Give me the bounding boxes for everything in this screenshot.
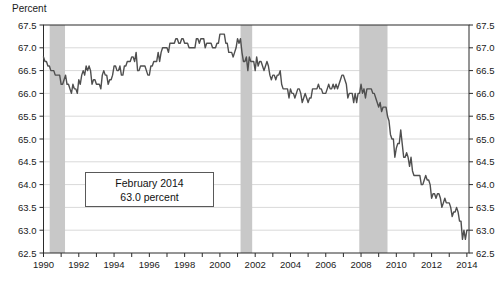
y-tick-label-left: 67.5 — [18, 20, 37, 31]
x-tick-label: 1996 — [139, 259, 160, 270]
annotation-box: February 2014 63.0 percent — [85, 172, 214, 207]
y-tick-label-right: 63.5 — [476, 202, 495, 213]
y-tick-label-left: 64.5 — [18, 156, 37, 167]
y-tick-label-left: 65.0 — [18, 134, 37, 145]
x-tick-label: 2004 — [280, 259, 301, 270]
y-tick-label-right: 67.5 — [476, 20, 495, 31]
y-tick-label-right: 67.0 — [476, 42, 495, 53]
y-tick-label-right: 65.0 — [476, 134, 495, 145]
y-tick-label-left: 67.0 — [18, 42, 37, 53]
annotation-value: 63.0 percent — [120, 190, 178, 204]
x-tick-label: 1992 — [68, 259, 89, 270]
recession-band — [50, 25, 65, 253]
y-tick-label-left: 66.0 — [18, 88, 37, 99]
data-line — [44, 34, 469, 239]
x-tick-label: 2006 — [315, 259, 336, 270]
y-tick-label-right: 66.5 — [476, 65, 495, 76]
recession-band — [359, 25, 387, 253]
y-tick-label-left: 63.5 — [18, 202, 37, 213]
x-tick-label: 2014 — [456, 259, 477, 270]
x-tick-label: 2012 — [421, 259, 442, 270]
y-tick-label-right: 66.0 — [476, 88, 495, 99]
x-tick-label: 1994 — [103, 259, 124, 270]
y-tick-label-right: 64.5 — [476, 156, 495, 167]
y-tick-label-left: 63.0 — [18, 225, 37, 236]
y-tick-label-right: 63.0 — [476, 225, 495, 236]
y-tick-label-right: 64.0 — [476, 179, 495, 190]
x-tick-label: 2010 — [386, 259, 407, 270]
y-tick-label-left: 64.0 — [18, 179, 37, 190]
x-tick-label: 2002 — [245, 259, 266, 270]
y-tick-label-right: 62.5 — [476, 248, 495, 259]
y-tick-label-left: 65.5 — [18, 111, 37, 122]
x-tick-label: 2000 — [209, 259, 230, 270]
annotation-date: February 2014 — [115, 176, 183, 190]
line-chart-plot: 1990199219941996199820002002200420062008… — [0, 0, 504, 284]
y-tick-label-right: 65.5 — [476, 111, 495, 122]
x-tick-label: 1990 — [33, 259, 54, 270]
x-tick-label: 1998 — [174, 259, 195, 270]
y-tick-label-left: 62.5 — [18, 248, 37, 259]
x-tick-label: 2008 — [350, 259, 371, 270]
y-tick-label-left: 66.5 — [18, 65, 37, 76]
participation-rate-chart: Percent 19901992199419961998200020022004… — [0, 0, 504, 284]
